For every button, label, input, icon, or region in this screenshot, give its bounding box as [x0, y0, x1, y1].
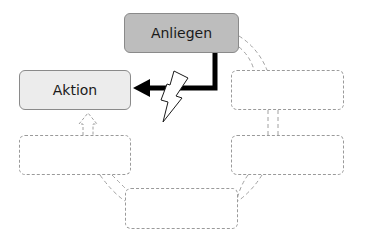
dashed-arrow-leftbottom-aktion [79, 113, 97, 135]
dashed-connector-rightbottom-bottom [237, 175, 262, 201]
node-bottom [125, 188, 238, 229]
lightning-bolt-icon [161, 71, 188, 122]
node-right-bottom [231, 135, 344, 175]
node-left-bottom [19, 135, 131, 175]
dashed-connector-anliegen-righttop [239, 36, 267, 70]
node-aktion-label: Aktion [53, 82, 98, 98]
node-right-top [231, 70, 344, 110]
node-anliegen: Anliegen [124, 13, 239, 53]
dashed-connector-righttop-rightbottom [268, 110, 278, 135]
diagram-canvas: Anliegen Aktion [0, 0, 366, 240]
node-anliegen-label: Anliegen [151, 25, 212, 41]
node-aktion: Aktion [19, 70, 131, 110]
thick-arrow-anliegen-aktion [133, 53, 215, 97]
dashed-connector-bottom-leftbottom [100, 175, 125, 201]
